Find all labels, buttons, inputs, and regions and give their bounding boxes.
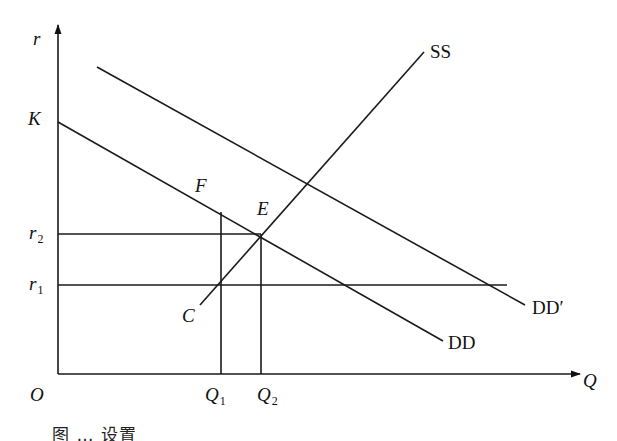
point-e-label: E (256, 198, 269, 219)
point-f-label: F (194, 175, 207, 196)
figure-caption: 图 … 设置 (52, 421, 612, 441)
x-axis-label: Q (583, 370, 597, 391)
dd-label: DD (448, 332, 475, 353)
ss-label: SS (430, 41, 451, 62)
r1-tick-label: r1 (29, 273, 43, 297)
dd-prime-curve (97, 67, 525, 305)
dd-prime-label: DD′ (532, 297, 564, 318)
r2-tick-label: r2 (29, 222, 43, 246)
q1-tick-label: Q1 (205, 384, 226, 408)
y-axis-label: r (33, 28, 41, 49)
dd-curve (58, 122, 443, 341)
point-c-label: C (182, 305, 195, 326)
q2-tick-label: Q2 (257, 384, 278, 408)
point-k-label: K (27, 108, 42, 129)
origin-label: O (30, 384, 44, 405)
